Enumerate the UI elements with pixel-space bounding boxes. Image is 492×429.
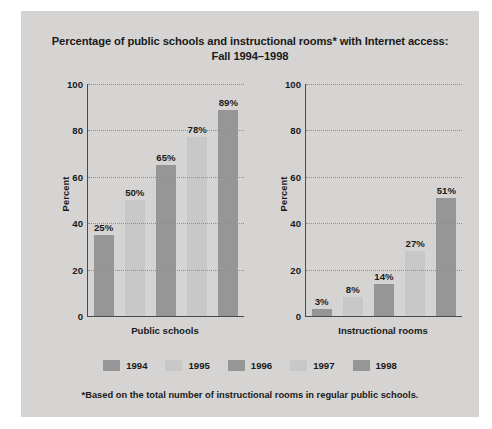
y-tick-right-40: 40 bbox=[275, 218, 301, 229]
gridline-left-100 bbox=[88, 84, 244, 85]
gridline-left-20 bbox=[88, 270, 244, 271]
bar-right-1996[interactable]: 14% bbox=[374, 84, 394, 316]
chart-instructional-rooms: Percent 100806040200 3%8%14%27%51% Instr… bbox=[253, 84, 468, 344]
plot-area-left: 25%50%65%78%89% bbox=[87, 84, 244, 317]
bar-fill-left-1998: 89% bbox=[218, 110, 238, 316]
bar-value-label-left-1995: 50% bbox=[125, 187, 144, 198]
gridline-left-40 bbox=[88, 223, 244, 224]
bar-value-label-right-1995: 8% bbox=[346, 284, 360, 295]
bar-right-1994[interactable]: 3% bbox=[312, 84, 332, 316]
bar-fill-left-1994: 25% bbox=[94, 235, 114, 316]
bar-right-1995[interactable]: 8% bbox=[343, 84, 363, 316]
chart-legend: 19941995199619971998 bbox=[21, 360, 479, 371]
gridline-right-40 bbox=[306, 223, 462, 224]
y-tick-right-60: 60 bbox=[275, 171, 301, 182]
bar-group-right: 3%8%14%27%51% bbox=[306, 84, 462, 316]
legend-swatch-1997 bbox=[290, 360, 307, 371]
gridline-left-80 bbox=[88, 130, 244, 131]
bar-fill-right-1994: 3% bbox=[312, 309, 332, 316]
bar-fill-left-1995: 50% bbox=[125, 200, 145, 316]
y-tick-right-20: 20 bbox=[275, 264, 301, 275]
legend-swatch-1996 bbox=[228, 360, 245, 371]
figure-title-line2: Fall 1994–1998 bbox=[212, 50, 289, 62]
y-tick-left-100: 100 bbox=[57, 79, 83, 90]
y-axis-ticks-right: 100806040200 bbox=[275, 84, 301, 316]
bar-right-1998[interactable]: 51% bbox=[436, 84, 456, 316]
legend-label-1998: 1998 bbox=[376, 360, 397, 371]
x-axis-label-right: Instructional rooms bbox=[305, 325, 461, 336]
legend-item-1998[interactable]: 1998 bbox=[353, 360, 397, 371]
y-tick-left-40: 40 bbox=[57, 218, 83, 229]
legend-label-1995: 1995 bbox=[188, 360, 209, 371]
x-axis-label-left: Public schools bbox=[87, 325, 243, 336]
figure-title-line1: Percentage of public schools and instruc… bbox=[52, 35, 449, 47]
gridline-right-100 bbox=[306, 84, 462, 85]
bar-left-1995[interactable]: 50% bbox=[125, 84, 145, 316]
y-tick-right-80: 80 bbox=[275, 125, 301, 136]
legend-label-1994: 1994 bbox=[126, 360, 147, 371]
legend-swatch-1998 bbox=[353, 360, 370, 371]
bar-fill-left-1996: 65% bbox=[156, 165, 176, 316]
chart-public-schools: Percent 100806040200 25%50%65%78%89% Pub… bbox=[35, 84, 250, 344]
bar-fill-right-1995: 8% bbox=[343, 297, 363, 316]
figure-title: Percentage of public schools and instruc… bbox=[21, 34, 479, 64]
legend-swatch-1994 bbox=[103, 360, 120, 371]
legend-swatch-1995 bbox=[165, 360, 182, 371]
y-tick-left-0: 0 bbox=[57, 311, 83, 322]
legend-label-1996: 1996 bbox=[251, 360, 272, 371]
bar-fill-left-1997: 78% bbox=[187, 137, 207, 316]
bar-left-1998[interactable]: 89% bbox=[218, 84, 238, 316]
bar-fill-right-1996: 14% bbox=[374, 284, 394, 316]
bar-value-label-right-1994: 3% bbox=[315, 296, 329, 307]
figure-footnote: *Based on the total number of instructio… bbox=[21, 390, 479, 400]
y-tick-left-20: 20 bbox=[57, 264, 83, 275]
bar-value-label-right-1998: 51% bbox=[437, 185, 456, 196]
bar-left-1996[interactable]: 65% bbox=[156, 84, 176, 316]
figure-panel: Percentage of public schools and instruc… bbox=[21, 11, 479, 417]
legend-label-1997: 1997 bbox=[313, 360, 334, 371]
bar-left-1994[interactable]: 25% bbox=[94, 84, 114, 316]
gridline-right-60 bbox=[306, 177, 462, 178]
bar-fill-right-1998: 51% bbox=[436, 198, 456, 316]
y-tick-left-80: 80 bbox=[57, 125, 83, 136]
bar-fill-right-1997: 27% bbox=[405, 251, 425, 316]
bar-right-1997[interactable]: 27% bbox=[405, 84, 425, 316]
gridline-right-20 bbox=[306, 270, 462, 271]
legend-item-1995[interactable]: 1995 bbox=[165, 360, 209, 371]
y-tick-right-0: 0 bbox=[275, 311, 301, 322]
bar-value-label-right-1997: 27% bbox=[406, 238, 425, 249]
y-tick-right-100: 100 bbox=[275, 79, 301, 90]
y-tick-left-60: 60 bbox=[57, 171, 83, 182]
gridline-right-80 bbox=[306, 130, 462, 131]
y-axis-ticks-left: 100806040200 bbox=[57, 84, 83, 316]
bar-value-label-right-1996: 14% bbox=[374, 271, 393, 282]
legend-item-1996[interactable]: 1996 bbox=[228, 360, 272, 371]
bar-value-label-left-1998: 89% bbox=[219, 97, 238, 108]
bar-group-left: 25%50%65%78%89% bbox=[88, 84, 244, 316]
legend-item-1997[interactable]: 1997 bbox=[290, 360, 334, 371]
bar-value-label-left-1996: 65% bbox=[156, 152, 175, 163]
plot-area-right: 3%8%14%27%51% bbox=[305, 84, 462, 317]
bar-left-1997[interactable]: 78% bbox=[187, 84, 207, 316]
legend-item-1994[interactable]: 1994 bbox=[103, 360, 147, 371]
gridline-left-60 bbox=[88, 177, 244, 178]
